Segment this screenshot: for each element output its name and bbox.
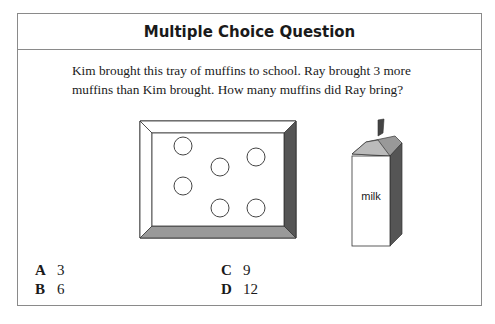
choice-b[interactable]: B6 [35, 281, 65, 298]
choice-letter: A [35, 262, 57, 279]
choice-d[interactable]: D12 [221, 281, 258, 298]
carton-label: milk [352, 190, 390, 202]
choice-letter: C [221, 262, 243, 279]
choice-letter: D [221, 281, 243, 298]
muffin [247, 148, 265, 166]
muffin [174, 177, 192, 195]
choice-value: 12 [243, 281, 258, 297]
muffin [247, 199, 265, 217]
choice-value: 6 [57, 281, 65, 297]
milk-carton-illustration [352, 119, 402, 246]
muffin [211, 158, 229, 176]
muffin [211, 199, 229, 217]
choice-c[interactable]: C9 [221, 262, 251, 279]
choice-value: 9 [243, 262, 251, 278]
choice-a[interactable]: A3 [35, 262, 65, 279]
muffin-tray-illustration [140, 121, 296, 238]
choice-value: 3 [57, 262, 65, 278]
muffin [174, 137, 192, 155]
choice-letter: B [35, 281, 57, 298]
